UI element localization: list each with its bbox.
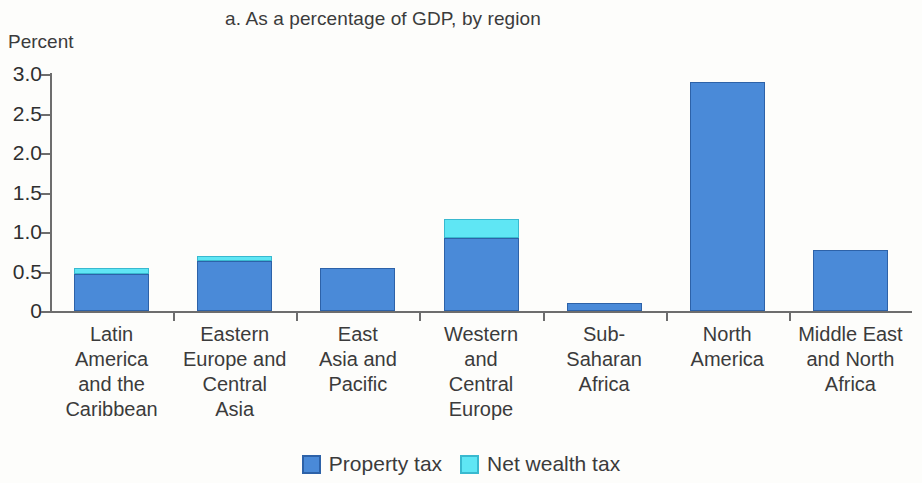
x-tick-mark	[419, 311, 421, 321]
bar-segment-property-tax[interactable]	[813, 250, 888, 311]
x-category-label-line: America	[666, 347, 789, 372]
y-tick-label: 1.5	[13, 181, 42, 205]
y-tick-mark	[41, 311, 50, 313]
x-category-label-line: Eastern	[173, 322, 296, 347]
bar-7[interactable]	[813, 250, 888, 311]
x-category-label-line: and the	[50, 372, 173, 397]
plot-area	[50, 74, 912, 311]
y-axis-tick-labels: 3.02.52.01.51.00.50	[0, 74, 42, 311]
bar-segment-net-wealth-tax[interactable]	[74, 268, 149, 274]
x-category-label-line: Europe	[419, 397, 542, 422]
y-tick-label: 2.5	[13, 102, 42, 126]
bar-segment-property-tax[interactable]	[197, 261, 272, 311]
x-category-label-line: America	[50, 347, 173, 372]
y-tick-mark	[41, 114, 50, 116]
bar-segment-net-wealth-tax[interactable]	[197, 256, 272, 262]
bar-segment-property-tax[interactable]	[567, 303, 642, 311]
x-category-label-line: East	[296, 322, 419, 347]
x-category-label: Middle Eastand NorthAfrica	[789, 322, 912, 397]
x-tick-mark	[789, 311, 791, 321]
y-tick-mark	[41, 153, 50, 155]
x-category-label: Sub-SaharanAfrica	[543, 322, 666, 397]
y-tick-label: 2.0	[13, 141, 42, 165]
legend-swatch-icon	[302, 455, 321, 474]
x-category-label-line: Pacific	[296, 372, 419, 397]
x-category-label-line: and	[419, 347, 542, 372]
bar-2[interactable]	[197, 256, 272, 311]
chart-legend: Property taxNet wealth tax	[0, 452, 922, 476]
legend-label: Property tax	[329, 452, 442, 476]
y-tick-label: 3.0	[13, 62, 42, 86]
x-category-label-line: Africa	[789, 372, 912, 397]
bar-3[interactable]	[320, 268, 395, 311]
x-category-label-line: Saharan	[543, 347, 666, 372]
bar-6[interactable]	[690, 82, 765, 311]
x-tick-mark	[666, 311, 668, 321]
bar-segment-property-tax[interactable]	[74, 274, 149, 311]
x-category-label-line: Middle East	[789, 322, 912, 347]
chart-panel: a. As a percentage of GDP, by region Per…	[0, 0, 922, 483]
x-category-label-line: Central	[173, 372, 296, 397]
x-category-label: EasternEurope andCentralAsia	[173, 322, 296, 422]
x-category-label: WesternandCentralEurope	[419, 322, 542, 422]
x-category-label-line: Asia	[173, 397, 296, 422]
bar-1[interactable]	[74, 268, 149, 311]
x-category-label-line: Caribbean	[50, 397, 173, 422]
x-tick-mark	[173, 311, 175, 321]
legend-swatch-icon	[460, 455, 479, 474]
y-tick-mark	[41, 272, 50, 274]
legend-item-2[interactable]: Net wealth tax	[460, 452, 620, 476]
legend-label: Net wealth tax	[487, 452, 620, 476]
y-tick-mark	[41, 193, 50, 195]
x-category-label-line: Africa	[543, 372, 666, 397]
bar-4[interactable]	[444, 219, 519, 311]
x-category-label-line: and North	[789, 347, 912, 372]
y-axis-line	[50, 73, 52, 312]
bar-segment-property-tax[interactable]	[690, 82, 765, 311]
x-category-label-line: Asia and	[296, 347, 419, 372]
x-axis-category-labels: LatinAmericaand theCaribbeanEasternEurop…	[50, 322, 912, 432]
y-axis-unit-label: Percent	[8, 31, 73, 53]
x-category-label-line: North	[666, 322, 789, 347]
x-category-label-line: Sub-	[543, 322, 666, 347]
y-tick-label: 1.0	[13, 220, 42, 244]
chart-title: a. As a percentage of GDP, by region	[0, 8, 922, 30]
x-category-label-line: Latin	[50, 322, 173, 347]
legend-item-1[interactable]: Property tax	[302, 452, 442, 476]
x-category-label: EastAsia andPacific	[296, 322, 419, 397]
bar-segment-property-tax[interactable]	[320, 268, 395, 311]
x-category-label-line: Europe and	[173, 347, 296, 372]
x-category-label-line: Western	[419, 322, 542, 347]
x-category-label-line: Central	[419, 372, 542, 397]
x-category-label: NorthAmerica	[666, 322, 789, 372]
bar-5[interactable]	[567, 303, 642, 311]
x-tick-mark	[296, 311, 298, 321]
x-axis-line	[50, 311, 912, 313]
y-tick-label: 0.5	[13, 260, 42, 284]
x-tick-mark	[543, 311, 545, 321]
y-tick-mark	[41, 232, 50, 234]
x-category-label: LatinAmericaand theCaribbean	[50, 322, 173, 422]
bar-segment-net-wealth-tax[interactable]	[444, 219, 519, 238]
chart-title-text: a. As a percentage of GDP, by region	[225, 8, 541, 29]
y-tick-mark	[41, 74, 50, 76]
bar-segment-property-tax[interactable]	[444, 238, 519, 311]
